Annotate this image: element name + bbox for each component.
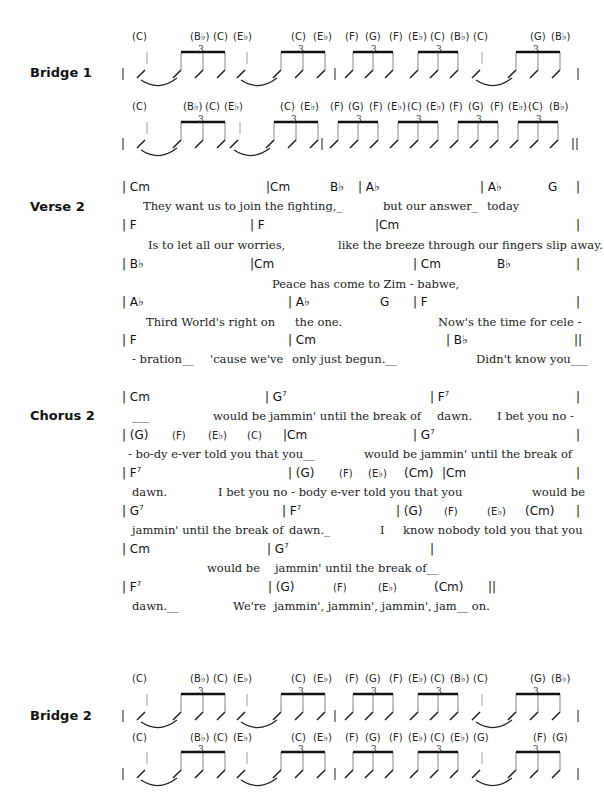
chord: (F) (533, 732, 547, 743)
chord: | Cm (122, 542, 150, 556)
chord: (E♭) (450, 732, 469, 743)
triplet-number: 3 (371, 686, 377, 696)
lyric: would be jammin' until the break of (364, 447, 572, 461)
chord: (E♭) (408, 732, 427, 743)
chord: (E♭) (313, 673, 332, 684)
triplet-number: 3 (533, 744, 539, 754)
chord: | (576, 504, 580, 518)
chord: (B♭) (450, 673, 469, 684)
chord: (C) (213, 732, 228, 743)
chord: |Cm (250, 257, 274, 271)
chord: (C) (132, 732, 147, 743)
chord: |Cm (375, 218, 399, 232)
chord: | (576, 466, 580, 480)
lyric: - bo-dy e-ver told you that you__ (128, 447, 315, 461)
chord: | F (122, 333, 137, 347)
chord: (F) (389, 673, 403, 684)
chord: | G7 (122, 504, 144, 518)
chord: (F) (172, 430, 186, 441)
chord: || (488, 580, 496, 594)
chord: | A♭ (122, 295, 144, 309)
chord: | F7 (122, 580, 141, 594)
chord: (E♭) (368, 468, 387, 479)
lyric: I (380, 523, 385, 537)
section-label-bridge-2: Bridge 2 (30, 708, 92, 723)
chord: (F) (345, 732, 359, 743)
triplet-number: 3 (436, 686, 442, 696)
chord: (C) (473, 673, 488, 684)
chord: | Cm (122, 390, 150, 404)
chord: | (576, 295, 580, 309)
lyric: Peace has come to Zim - babwe, (272, 277, 459, 291)
triplet-number: 3 (436, 44, 442, 54)
chord: (C) (291, 673, 306, 684)
chord: (E♭) (233, 732, 252, 743)
triplet-number: 3 (198, 44, 204, 54)
lyric: Now's the time for cele - (438, 315, 581, 329)
chord: | (G) (396, 504, 423, 518)
chord: (G) (473, 732, 489, 743)
chord: (C) (430, 732, 445, 743)
triplet-number: 3 (416, 114, 422, 124)
lyric: - bration__ (132, 352, 193, 366)
chord: B♭ (497, 257, 511, 271)
chord: (E♭) (487, 506, 506, 517)
chord: | G7 (265, 390, 287, 404)
chord: | Cm (122, 180, 150, 194)
lyric: like the breeze through our fingers slip… (338, 238, 603, 252)
chord: | Cm (413, 257, 441, 271)
chord: (G) (365, 673, 381, 684)
chord: | A♭ (288, 295, 310, 309)
chord: (F) (444, 506, 458, 517)
chord: (C) (213, 673, 228, 684)
triplet-number: 3 (291, 114, 297, 124)
chord: (C) (132, 673, 147, 684)
triplet-number: 3 (533, 44, 539, 54)
chord: (E♭) (408, 673, 427, 684)
chord: |Cm (283, 428, 307, 442)
triplet-number: 3 (298, 744, 304, 754)
lyric: jammin', jammin', jammin', jam__ on. (274, 599, 490, 613)
lyric: today (487, 199, 519, 213)
triplet-number: 3 (371, 744, 377, 754)
chord: (E♭) (378, 582, 397, 593)
chord: (F) (345, 673, 359, 684)
chord: (B♭) (190, 673, 209, 684)
triplet-number: 3 (436, 744, 442, 754)
chord: | F7 (430, 390, 449, 404)
chord: (Cm) (525, 504, 554, 518)
chord: (E♭) (208, 430, 227, 441)
chord: | (576, 390, 580, 404)
chord: | (430, 542, 434, 556)
chord: | F (250, 218, 265, 232)
lyric: dawn._ (289, 523, 330, 537)
lyric: They want us to join the fighting,_ (143, 199, 342, 213)
lyric: know nobody told you that you (403, 523, 583, 537)
chord: | A♭ (358, 180, 380, 194)
chord: (Cm) (404, 466, 433, 480)
chord: | B♭ (122, 257, 144, 271)
chord: (G) (552, 732, 568, 743)
triplet-number: 3 (476, 114, 482, 124)
chord: B♭ (330, 180, 344, 194)
lyric: dawn. (132, 485, 167, 499)
chord: | (G) (288, 466, 315, 480)
chord: | (576, 257, 580, 271)
chord: (C) (291, 732, 306, 743)
chord: (Cm) (434, 580, 463, 594)
chord: (F) (339, 468, 353, 479)
chord: | F7 (122, 466, 141, 480)
chord: | (G) (122, 428, 149, 442)
chord: (G) (530, 673, 546, 684)
triplet-number: 3 (298, 686, 304, 696)
lyric: I bet you no - body e-ver told you that … (218, 485, 462, 499)
lyric: dawn.__ (132, 599, 179, 613)
lyric: ___ (132, 409, 149, 423)
chord: | G7 (267, 542, 289, 556)
lyric: I bet you no - (497, 409, 574, 423)
chord: (G) (365, 732, 381, 743)
triplet-number: 3 (356, 114, 362, 124)
lyric: dawn. (437, 409, 472, 423)
chord: | (576, 428, 580, 442)
triplet-number: 3 (198, 114, 204, 124)
